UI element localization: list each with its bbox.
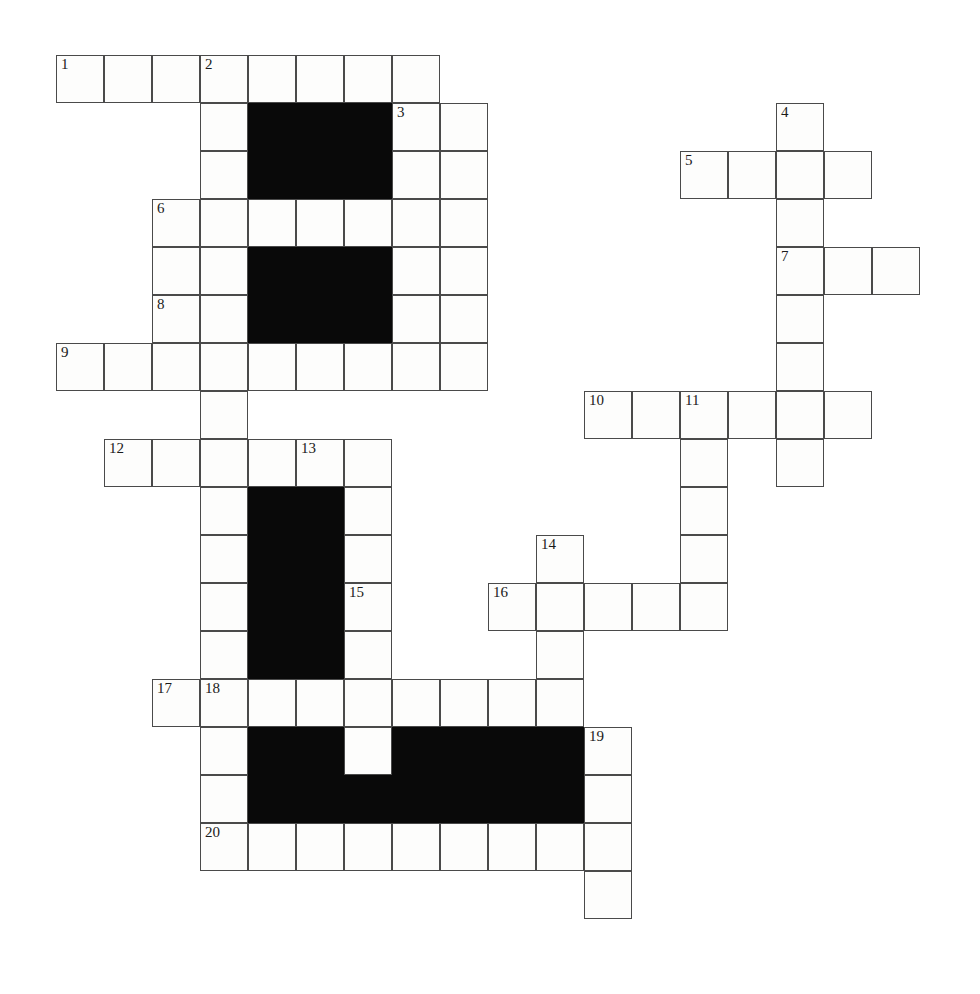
grid-cell[interactable]: 10 [584,391,632,439]
grid-cell[interactable] [440,679,488,727]
grid-cell[interactable] [728,391,776,439]
grid-cell[interactable] [680,583,728,631]
grid-cell[interactable] [152,247,200,295]
grid-cell[interactable]: 8 [152,295,200,343]
grid-cell[interactable]: 11 [680,391,728,439]
grid-cell[interactable] [536,823,584,871]
grid-cell[interactable] [392,199,440,247]
grid-cell[interactable] [200,103,248,151]
grid-cell[interactable] [248,679,296,727]
grid-cell[interactable] [536,583,584,631]
grid-cell[interactable] [824,151,872,199]
grid-cell[interactable] [200,391,248,439]
grid-cell[interactable]: 20 [200,823,248,871]
grid-cell[interactable] [440,151,488,199]
grid-cell[interactable] [440,295,488,343]
grid-cell[interactable] [680,439,728,487]
grid-cell[interactable] [824,247,872,295]
grid-cell[interactable]: 19 [584,727,632,775]
grid-cell[interactable] [584,775,632,823]
grid-cell[interactable] [392,295,440,343]
grid-cell[interactable] [728,151,776,199]
grid-cell[interactable]: 7 [776,247,824,295]
grid-cell[interactable] [152,55,200,103]
grid-cell[interactable] [536,631,584,679]
grid-cell[interactable] [344,487,392,535]
grid-cell[interactable]: 15 [344,583,392,631]
grid-cell[interactable]: 3 [392,103,440,151]
grid-cell[interactable] [248,439,296,487]
grid-cell[interactable]: 5 [680,151,728,199]
grid-cell[interactable] [344,823,392,871]
grid-cell[interactable] [104,55,152,103]
grid-cell[interactable] [248,823,296,871]
grid-cell[interactable] [344,535,392,583]
grid-cell[interactable] [200,295,248,343]
grid-cell[interactable] [392,55,440,103]
grid-cell[interactable]: 1 [56,55,104,103]
grid-cell[interactable] [776,199,824,247]
grid-cell[interactable] [200,199,248,247]
grid-cell[interactable]: 14 [536,535,584,583]
grid-cell[interactable] [152,439,200,487]
grid-cell[interactable] [344,343,392,391]
grid-cell[interactable] [392,247,440,295]
grid-cell[interactable] [344,439,392,487]
grid-cell[interactable]: 17 [152,679,200,727]
grid-cell[interactable] [872,247,920,295]
grid-cell[interactable] [200,583,248,631]
grid-cell[interactable] [776,391,824,439]
grid-cell[interactable]: 2 [200,55,248,103]
grid-cell[interactable] [344,631,392,679]
grid-cell[interactable] [200,775,248,823]
grid-cell[interactable] [392,343,440,391]
grid-cell[interactable] [296,823,344,871]
grid-cell[interactable] [440,823,488,871]
grid-cell[interactable] [296,55,344,103]
grid-cell[interactable]: 18 [200,679,248,727]
grid-cell[interactable] [440,103,488,151]
grid-cell[interactable] [680,535,728,583]
grid-cell[interactable] [200,631,248,679]
grid-cell[interactable] [392,679,440,727]
grid-cell[interactable] [200,247,248,295]
grid-cell[interactable] [776,151,824,199]
grid-cell[interactable] [296,199,344,247]
grid-cell[interactable] [776,343,824,391]
grid-cell[interactable] [488,823,536,871]
grid-cell[interactable]: 16 [488,583,536,631]
grid-cell[interactable] [680,487,728,535]
grid-cell[interactable] [200,727,248,775]
grid-cell[interactable] [488,679,536,727]
grid-cell[interactable] [344,679,392,727]
grid-cell[interactable]: 9 [56,343,104,391]
grid-cell[interactable] [248,343,296,391]
grid-cell[interactable] [632,583,680,631]
grid-cell[interactable]: 13 [296,439,344,487]
grid-cell[interactable] [392,151,440,199]
grid-cell[interactable] [776,439,824,487]
grid-cell[interactable] [776,295,824,343]
grid-cell[interactable]: 6 [152,199,200,247]
grid-cell[interactable] [296,343,344,391]
grid-cell[interactable] [392,823,440,871]
grid-cell[interactable]: 4 [776,103,824,151]
grid-cell[interactable] [584,583,632,631]
grid-cell[interactable] [104,343,152,391]
grid-cell[interactable] [536,679,584,727]
grid-cell[interactable] [200,439,248,487]
grid-cell[interactable] [584,871,632,919]
grid-cell[interactable] [152,343,200,391]
grid-cell[interactable] [248,199,296,247]
grid-cell[interactable] [344,55,392,103]
grid-cell[interactable] [200,151,248,199]
grid-cell[interactable] [440,199,488,247]
grid-cell[interactable] [200,487,248,535]
grid-cell[interactable] [584,823,632,871]
grid-cell[interactable] [440,247,488,295]
grid-cell[interactable] [248,55,296,103]
grid-cell[interactable]: 12 [104,439,152,487]
grid-cell[interactable] [344,727,392,775]
grid-cell[interactable] [200,343,248,391]
grid-cell[interactable] [824,391,872,439]
